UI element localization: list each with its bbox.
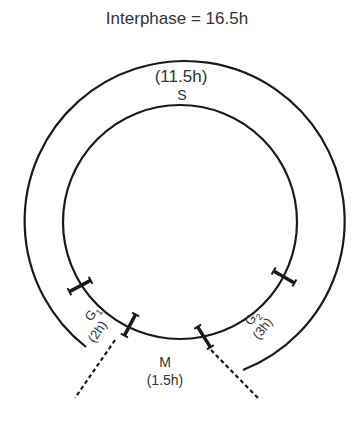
s-phase-label: S bbox=[177, 87, 186, 103]
g1-phase-label-group: G1 (2h) bbox=[72, 303, 114, 346]
s-phase-duration: (11.5h) bbox=[155, 67, 208, 86]
cell-cycle-inner-circle bbox=[63, 105, 297, 339]
boundary-tick-s-g1 bbox=[68, 277, 93, 295]
m-phase-label: M bbox=[159, 354, 171, 370]
m-phase-duration: (1.5h) bbox=[147, 372, 184, 388]
m-boundary-dashed-right bbox=[211, 350, 258, 398]
boundary-tick-g2-s bbox=[272, 268, 297, 287]
g1-phase-duration: (2h) bbox=[84, 318, 110, 346]
cell-cycle-diagram: (11.5h) S G1 (2h) G2 (3h) M (1.5h) bbox=[0, 0, 354, 421]
m-boundary-dashed-left bbox=[75, 340, 115, 398]
